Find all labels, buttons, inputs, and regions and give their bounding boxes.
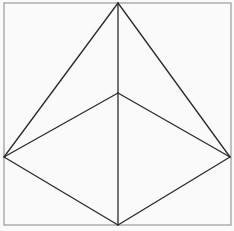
geometric-diagram — [0, 0, 234, 231]
diagram-edges — [4, 3, 230, 225]
edge-left-bottom — [4, 157, 118, 225]
edge-middle-right — [118, 93, 230, 157]
edge-top-right — [118, 3, 230, 157]
edge-middle-left — [4, 93, 118, 157]
edge-right-bottom — [118, 157, 230, 225]
edge-top-left — [4, 3, 118, 157]
